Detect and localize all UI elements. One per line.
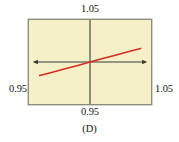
x-axis-left-arrow-icon: [33, 60, 38, 65]
x-axis-min-label: 0.95: [0, 84, 27, 95]
plot-svg: [29, 20, 151, 104]
figure-panel: 1.05 0.95 1.05 0.95 (D): [0, 0, 179, 142]
y-axis-min-label: 0.95: [70, 107, 110, 118]
x-axis-right-arrow-icon: [142, 60, 147, 65]
figure-caption: (D): [0, 124, 179, 135]
y-axis-max-label: 1.05: [70, 4, 110, 15]
plot-area: [28, 19, 152, 105]
x-axis-max-label: 1.05: [155, 84, 179, 95]
